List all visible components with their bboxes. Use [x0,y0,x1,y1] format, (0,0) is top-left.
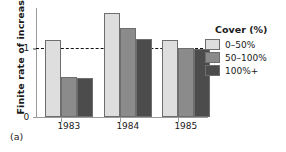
y-tick-mark [33,48,37,49]
x-tick-mark [120,118,121,122]
legend-label: 0–50% [225,40,255,50]
bar [61,77,77,117]
plot-area: 01 198319841985 [36,8,208,118]
bar-group [45,8,93,117]
bar [120,28,136,116]
bar [45,40,61,117]
legend-title: Cover (%) [215,24,286,35]
x-tick-label: 1983 [57,121,80,131]
bar [136,39,152,117]
figure-panel-a: Finite rate of increase 01 198319841985 … [0,0,286,152]
legend-entry: 0–50% [205,38,286,51]
legend-swatch [205,39,220,50]
legend-entries: 0–50%50–100%100%+ [205,38,286,77]
legend-swatch [205,52,220,63]
y-tick-mark [33,117,37,118]
y-axis-title: Finite rate of increase [15,3,26,115]
x-tick-mark [61,118,62,122]
bar [104,13,120,117]
x-tick-label: 1984 [116,121,139,131]
x-tick-mark [178,118,179,122]
x-tick-label: 1985 [174,121,197,131]
legend-label: 100%+ [225,66,258,76]
bar [178,48,194,117]
bar-group [162,8,210,117]
panel-caption: (a) [10,131,23,142]
bar [162,40,178,117]
legend-entry: 50–100% [205,51,286,64]
bar-group [104,8,152,117]
y-tick-label: 1 [23,43,29,53]
legend-entry: 100%+ [205,64,286,77]
y-axis-line [36,8,37,118]
y-tick-label: 0 [23,112,29,122]
legend: Cover (%) 0–50%50–100%100%+ [205,24,286,77]
bar [77,78,93,117]
legend-label: 50–100% [225,53,267,63]
legend-swatch [205,65,220,76]
